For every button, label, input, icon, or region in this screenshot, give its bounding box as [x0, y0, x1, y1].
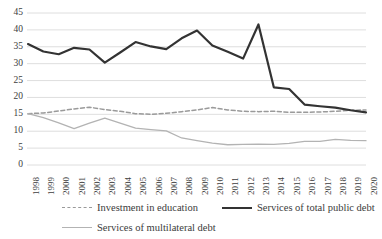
x-axis-tick-label: 2018 [339, 177, 348, 195]
x-axis-tick-label: 2017 [324, 177, 333, 195]
x-axis-tick-label: 2006 [155, 177, 164, 195]
legend-item-services-of-total-public-debt[interactable]: Services of total public debt [222, 202, 375, 213]
x-axis-tick-label: 2019 [354, 177, 363, 195]
x-axis-tick-label: 2016 [308, 177, 317, 195]
legend-row-2: Services of multilateral debt [0, 217, 382, 237]
x-axis-tick-label: 1998 [32, 177, 41, 195]
x-axis-tick-label: 2020 [370, 177, 379, 195]
x-axis-tick-label: 2008 [185, 177, 194, 195]
x-axis-tick-label: 1999 [47, 177, 56, 195]
x-axis-tick-label: 2004 [124, 177, 133, 195]
legend-label: Services of multilateral debt [97, 222, 216, 233]
x-axis-tick-label: 2015 [293, 177, 302, 195]
solid-gray-line-icon [62, 222, 92, 232]
legend-label: Investment in education [97, 202, 198, 213]
x-axis-tick-label: 2011 [231, 177, 240, 195]
x-axis-tick-label: 2000 [62, 177, 71, 195]
legend-row-1: Investment in education Services of tota… [0, 197, 382, 217]
dashed-gray-line-icon [62, 202, 92, 212]
x-axis-tick-label: 2012 [247, 177, 256, 195]
x-axis-tick-label: 2005 [139, 177, 148, 195]
legend-label: Services of total public debt [257, 202, 375, 213]
x-axis-tick-label: 2014 [277, 177, 286, 195]
x-axis-tick-label: 2001 [78, 177, 87, 195]
x-axis-tick-label: 2002 [93, 177, 102, 195]
x-axis-tick-label: 2003 [108, 177, 117, 195]
plot-area: 051015202530354045 199819992000200120022… [0, 0, 374, 200]
chart-legend: Investment in education Services of tota… [0, 196, 374, 239]
x-axis-tick-label: 2007 [170, 177, 179, 195]
x-axis-tick-label: 2009 [201, 177, 210, 195]
legend-item-investment-in-education[interactable]: Investment in education [62, 202, 198, 213]
solid-black-line-icon [222, 202, 252, 212]
x-axis-labels: 1998199920002001200220032004200520062007… [0, 0, 374, 200]
x-axis-tick-label: 2010 [216, 177, 225, 195]
legend-item-services-of-multilateral-debt[interactable]: Services of multilateral debt [62, 222, 216, 233]
x-axis-tick-label: 2013 [262, 177, 271, 195]
